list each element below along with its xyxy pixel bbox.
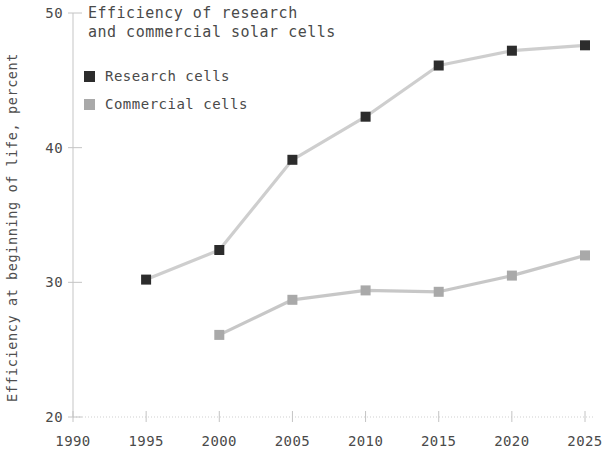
data-point-marker xyxy=(214,330,224,340)
series-line xyxy=(219,255,585,335)
data-point-marker xyxy=(507,271,517,281)
data-point-marker xyxy=(287,295,297,305)
data-point-marker xyxy=(361,112,371,122)
data-point-marker xyxy=(141,275,151,285)
data-point-marker xyxy=(434,287,444,297)
data-point-marker xyxy=(434,61,444,71)
data-point-marker xyxy=(361,285,371,295)
data-point-marker xyxy=(507,46,517,56)
data-point-marker xyxy=(580,250,590,260)
series-line xyxy=(146,45,585,279)
data-point-marker xyxy=(287,155,297,165)
data-point-marker xyxy=(580,40,590,50)
data-point-marker xyxy=(214,245,224,255)
